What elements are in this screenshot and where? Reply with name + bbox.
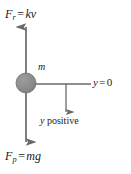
positive-direction-label: y positive (40, 116, 79, 126)
physics-free-body-diagram: Fr=kv Fp=mg m y=0 y positive (0, 0, 131, 174)
mass-particle (16, 73, 36, 93)
resistive-force-variable: v (31, 7, 36, 21)
weight-force-label: Fp=mg (5, 150, 41, 164)
resistive-force-label: Fr=kv (5, 8, 36, 22)
positive-direction-word: positive (47, 115, 79, 126)
datum-label: y=0 (93, 77, 112, 88)
mass-label: m (38, 62, 45, 72)
weight-force-mass: m (26, 149, 35, 163)
datum-equals: = (98, 76, 107, 88)
datum-value: 0 (107, 76, 113, 88)
weight-force-equals: = (17, 149, 27, 163)
resistive-force-equals: = (16, 7, 26, 21)
weight-force-gravity: g (35, 149, 41, 163)
